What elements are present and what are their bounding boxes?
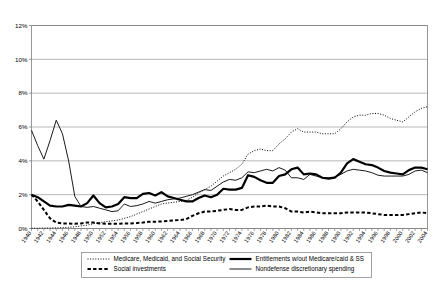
x-tick-label: 2004 — [416, 230, 428, 244]
y-tick-label: 4% — [19, 157, 28, 164]
x-tick-label: 1944 — [45, 230, 57, 244]
x-tick-label: 1986 — [305, 230, 317, 244]
x-tick-label: 1946 — [57, 230, 69, 244]
y-tick-label: 12% — [15, 22, 28, 29]
x-tick-label: 1970 — [206, 230, 218, 244]
x-tick-label: 1978 — [255, 230, 267, 244]
x-tick-label: 1984 — [293, 230, 305, 244]
legend-label: Medicare, Medicaid, and Social Security — [114, 255, 227, 263]
data-series-layer — [32, 107, 428, 228]
legend-label: Social investments — [114, 265, 167, 272]
legend-label: Entitlements w/out Medicare/caid & SS — [256, 255, 365, 262]
x-tick-label: 1996 — [367, 230, 379, 244]
x-tick-label: 1982 — [280, 230, 292, 244]
y-tick-label: 10% — [15, 56, 28, 63]
y-tick-label: 6% — [19, 123, 28, 130]
x-tick-label: 1956 — [119, 230, 131, 244]
x-tick-label: 1972 — [218, 230, 230, 244]
y-tick-label: 2% — [19, 191, 28, 198]
x-tick-label: 1940 — [20, 230, 32, 244]
x-tick-label: 1994 — [354, 230, 366, 244]
chart-legend: Medicare, Medicaid, and Social SecurityE… — [82, 253, 372, 278]
line-chart: 0%2%4%6%8%10%12% 19401942194419461948195… — [0, 0, 439, 293]
y-axis-tick-labels: 0%2%4%6%8%10%12% — [15, 22, 31, 232]
x-tick-label: 1948 — [70, 230, 82, 244]
x-tick-label: 1952 — [95, 230, 107, 244]
chart-figure: 0%2%4%6%8%10%12% 19401942194419461948195… — [0, 0, 439, 293]
x-tick-label: 1968 — [194, 230, 206, 244]
x-tick-label: 1980 — [268, 230, 280, 244]
x-tick-label: 1950 — [82, 230, 94, 244]
x-axis-tick-labels: 1940194219441946194819501952195419561958… — [20, 230, 428, 244]
x-tick-label: 1964 — [169, 230, 181, 244]
x-tick-label: 1966 — [181, 230, 193, 244]
x-tick-label: 1998 — [379, 230, 391, 244]
x-tick-label: 2000 — [392, 230, 404, 244]
x-tick-label: 1990 — [330, 230, 342, 244]
x-tick-label: 1954 — [107, 230, 119, 244]
x-tick-label: 1962 — [156, 230, 168, 244]
y-tick-label: 8% — [19, 89, 28, 96]
x-tick-label: 1976 — [243, 230, 255, 244]
x-tick-label: 1988 — [317, 230, 329, 244]
x-tick-label: 1974 — [231, 230, 243, 244]
x-tick-label: 1992 — [342, 230, 354, 244]
x-tick-label: 1960 — [144, 230, 156, 244]
legend-label: Nondefense discretionary spending — [256, 265, 355, 273]
x-tick-label: 1958 — [132, 230, 144, 244]
series-line — [32, 159, 428, 207]
x-tick-label: 2002 — [404, 230, 416, 244]
x-tick-label: 1942 — [33, 230, 45, 244]
